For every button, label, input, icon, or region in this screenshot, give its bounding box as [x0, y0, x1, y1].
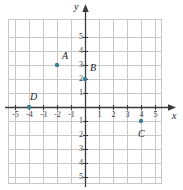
x-tick-label: 4	[136, 111, 147, 119]
x-tick-label: -4	[24, 111, 35, 119]
y-tick-label: 5	[75, 173, 83, 181]
y-tick-label: 1	[75, 89, 83, 97]
y-tick-label: 5	[75, 33, 83, 41]
y-tick-label: 1	[75, 117, 83, 125]
x-tick-label: -5	[10, 111, 21, 119]
y-tick-label: 3	[75, 145, 83, 153]
x-tick-label: 3	[122, 111, 133, 119]
x-tick-label: -2	[52, 111, 63, 119]
x-axis-label: x	[172, 111, 176, 121]
y-tick-label: 2	[75, 75, 83, 83]
y-tick-label: 4	[75, 159, 83, 167]
point-label-c: C	[138, 129, 145, 139]
y-tick-label: 3	[75, 61, 83, 69]
y-tick-label: 4	[75, 47, 83, 55]
y-tick-label: 2	[75, 131, 83, 139]
coordinate-plane-figure: -5-4-3-2-1123455432112345 ABCD x y	[0, 0, 183, 190]
x-tick-label: -3	[38, 111, 49, 119]
point-label-b: B	[90, 63, 96, 73]
x-tick-label: 2	[108, 111, 119, 119]
point-label-d: D	[30, 92, 37, 102]
y-axis-label: y	[74, 2, 78, 12]
coordinate-plane-graphic	[0, 0, 183, 190]
x-tick-label: 1	[94, 111, 105, 119]
x-tick-label: 5	[150, 111, 161, 119]
point-label-a: A	[62, 51, 68, 61]
